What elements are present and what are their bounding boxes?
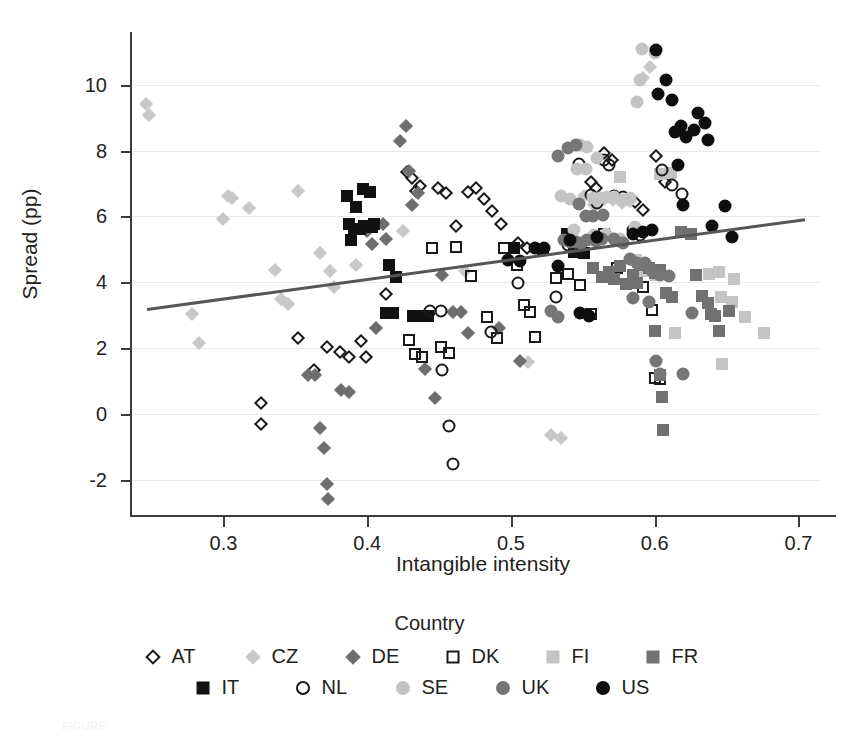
data-point-dk xyxy=(529,331,541,343)
y-axis-tick: 10 xyxy=(121,85,130,87)
data-point-at xyxy=(354,334,368,348)
legend-item-uk[interactable]: UK xyxy=(493,676,567,699)
data-point-de xyxy=(364,237,378,251)
data-point-it xyxy=(341,190,353,202)
legend-item-fr[interactable]: FR xyxy=(643,645,717,668)
data-point-dk xyxy=(443,347,455,359)
data-point-de xyxy=(418,362,432,376)
data-point-dk xyxy=(403,334,415,346)
data-point-nl xyxy=(447,457,460,470)
data-point-uk xyxy=(569,138,582,151)
legend-title: Country xyxy=(0,612,859,635)
legend-marker-it-icon xyxy=(193,678,213,698)
data-point-at xyxy=(359,350,373,364)
data-point-dk xyxy=(481,311,493,323)
data-point-fr xyxy=(608,273,620,285)
legend-item-at[interactable]: AT xyxy=(143,645,217,668)
data-point-cz xyxy=(349,258,363,272)
legend-marker-cz-icon xyxy=(243,647,263,667)
data-point-uk xyxy=(642,295,655,308)
x-axis-tick xyxy=(223,517,225,527)
data-point-us xyxy=(651,87,664,100)
legend-item-us[interactable]: US xyxy=(593,676,667,699)
legend-label: FR xyxy=(672,645,699,668)
y-axis-tick-label: 10 xyxy=(85,73,107,96)
legend-item-it[interactable]: IT xyxy=(193,676,267,699)
y-axis-tick-label: 8 xyxy=(96,139,107,162)
data-point-fr xyxy=(631,277,643,289)
legend-label: US xyxy=(622,676,650,699)
data-point-cz xyxy=(291,184,305,198)
data-point-nl xyxy=(655,163,668,176)
data-point-de xyxy=(379,232,393,246)
data-point-it xyxy=(383,259,395,271)
legend-label: SE xyxy=(422,676,449,699)
y-axis-tick: 6 xyxy=(121,216,130,218)
data-point-de xyxy=(428,391,442,405)
legend-item-dk[interactable]: DK xyxy=(443,645,517,668)
y-axis-title: Spread (pp) xyxy=(18,144,42,344)
data-point-dk xyxy=(574,279,586,291)
data-point-it xyxy=(368,218,380,230)
data-point-us xyxy=(701,133,714,146)
data-point-us xyxy=(677,198,690,211)
data-point-us xyxy=(582,309,595,322)
x-axis-tick xyxy=(655,517,657,527)
y-axis-tick-label: 6 xyxy=(96,205,107,228)
legend-marker-fr-icon xyxy=(643,647,663,667)
data-point-uk xyxy=(663,269,676,282)
data-point-dk xyxy=(426,242,438,254)
y-axis-tick-label: 0 xyxy=(96,402,107,425)
data-point-at xyxy=(320,340,334,354)
data-point-uk xyxy=(686,306,699,319)
legend-marker-de-icon xyxy=(343,647,363,667)
data-point-fi xyxy=(715,291,727,303)
data-point-fr xyxy=(713,325,725,337)
legend-item-fi[interactable]: FI xyxy=(543,645,617,668)
data-point-cz xyxy=(242,201,256,215)
data-point-at xyxy=(477,192,491,206)
data-point-fr xyxy=(656,391,668,403)
legend-label: DK xyxy=(472,645,500,668)
y-axis-tick: -2 xyxy=(121,480,130,482)
data-point-de xyxy=(461,326,475,340)
data-point-de xyxy=(399,119,413,133)
legend-item-nl[interactable]: NL xyxy=(293,676,367,699)
data-point-fi xyxy=(614,171,626,183)
gridline xyxy=(132,414,820,415)
y-axis-tick: 8 xyxy=(121,151,130,153)
data-point-se xyxy=(591,151,604,164)
legend-item-cz[interactable]: CZ xyxy=(243,645,317,668)
data-point-at xyxy=(254,396,268,410)
data-point-at xyxy=(254,417,268,431)
legend-item-de[interactable]: DE xyxy=(343,645,417,668)
data-point-fr xyxy=(690,269,702,281)
legend-item-se[interactable]: SE xyxy=(393,676,467,699)
data-point-dk xyxy=(416,351,428,363)
data-point-cz xyxy=(323,264,337,278)
legend-row: ATCZDEDKFIFR xyxy=(0,645,859,668)
y-axis-tick: 2 xyxy=(121,348,130,350)
data-point-us xyxy=(699,116,712,129)
figure-scatter-spread-vs-intangible-intensity: -20246810 0.30.40.50.60.7 Intangible int… xyxy=(0,0,859,738)
plot-area: -20246810 0.30.40.50.60.7 xyxy=(130,32,820,516)
data-point-dk xyxy=(562,268,574,280)
data-point-cz xyxy=(268,263,282,277)
data-point-se xyxy=(631,95,644,108)
data-point-cz xyxy=(313,246,327,260)
data-point-nl xyxy=(549,291,562,304)
data-point-uk xyxy=(627,292,640,305)
data-point-fi xyxy=(739,311,751,323)
legend-label: NL xyxy=(322,676,348,699)
data-point-uk xyxy=(552,310,565,323)
x-axis-tick xyxy=(798,517,800,527)
data-point-dk xyxy=(550,272,562,284)
data-point-fr xyxy=(649,325,661,337)
data-point-fi xyxy=(758,327,770,339)
y-axis-tick-label: 2 xyxy=(96,337,107,360)
legend-label: UK xyxy=(522,676,550,699)
data-point-it xyxy=(350,201,362,213)
data-point-fr xyxy=(723,305,735,317)
legend-label: IT xyxy=(222,676,240,699)
data-point-us xyxy=(552,260,565,273)
